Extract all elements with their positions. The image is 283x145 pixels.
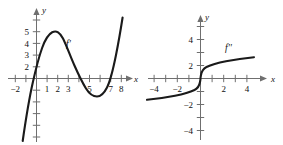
graph-f-double-prime: x y f'' −4 −2 2 4 4 2 −2 −4 (142, 0, 283, 145)
curve-label-f-prime: f' (66, 39, 72, 49)
ytick-label-2: 2 (25, 62, 30, 72)
x-axis-arrowhead (126, 75, 133, 81)
y-axis-label: y (204, 12, 209, 22)
graph-panel-f-double-prime: x y f'' −4 −2 2 4 4 2 −2 −4 (142, 0, 283, 145)
ytick-label-neg4: −4 (183, 126, 193, 136)
curve-f-prime (23, 18, 123, 142)
ytick-label-neg2: −2 (183, 100, 193, 110)
ytick-label-5: 5 (25, 27, 30, 37)
x-axis-arrowhead (260, 75, 267, 81)
x-axis-label: x (270, 74, 275, 84)
xtick-label-2: 2 (55, 84, 60, 94)
figure-two-graphs: x y f' −2 1 2 3 5 7 8 2 3 4 5 (0, 0, 283, 145)
ytick-label-4: 4 (189, 35, 194, 45)
ytick-label-3: 3 (25, 50, 30, 60)
xtick-label-5: 5 (87, 84, 92, 94)
xtick-label-8: 8 (119, 84, 124, 94)
x-axis-label: x (133, 74, 138, 84)
xtick-label-1: 1 (45, 84, 50, 94)
xtick-label-neg4: −4 (149, 84, 159, 94)
xtick-label-4: 4 (245, 84, 250, 94)
graph-panel-f-prime: x y f' −2 1 2 3 5 7 8 2 3 4 5 (0, 0, 142, 145)
y-axis-label: y (41, 5, 46, 15)
graph-f-prime: x y f' −2 1 2 3 5 7 8 2 3 4 5 (0, 0, 142, 145)
xtick-label-2: 2 (221, 84, 226, 94)
ytick-label-2: 2 (189, 61, 194, 71)
xtick-label-3: 3 (66, 84, 71, 94)
y-axis-arrowhead (33, 8, 39, 15)
xtick-label-neg2: −2 (11, 84, 21, 94)
xtick-label-neg2: −2 (173, 84, 183, 94)
curve-label-f-double-prime: f'' (225, 43, 233, 53)
ytick-label-4: 4 (25, 39, 30, 49)
y-axis-arrowhead (197, 15, 203, 22)
xtick-label-7: 7 (108, 84, 113, 94)
